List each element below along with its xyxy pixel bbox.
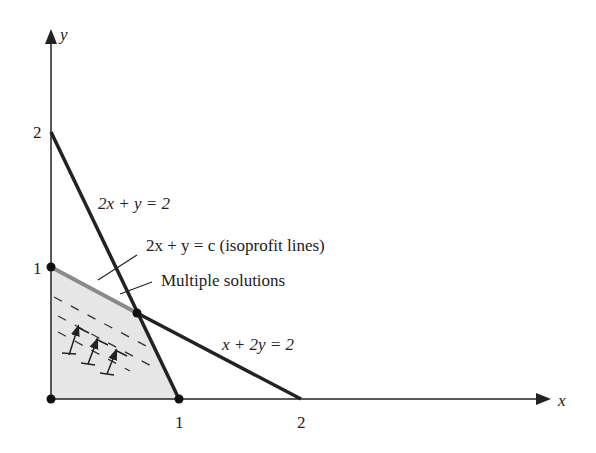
feasible-region	[51, 267, 179, 399]
x-tick-2: 2	[297, 414, 306, 431]
isoprofit-label: 2x + y = c (isoprofit lines)	[146, 237, 325, 254]
y-tick-1: 1	[33, 260, 42, 277]
x-axis-label: x	[558, 392, 566, 409]
eq1-label: 2x + y = 2	[98, 195, 170, 212]
x-tick-1: 1	[175, 414, 184, 431]
eq2-label: x + 2y = 2	[222, 336, 294, 353]
y-tick-2: 2	[33, 124, 42, 141]
multiple-solutions-label: Multiple solutions	[161, 272, 285, 289]
y-axis-label: y	[60, 26, 68, 43]
diagram-canvas	[0, 0, 596, 453]
isoprofit-leader	[98, 255, 137, 280]
lp-diagram: y x 2 1 1 2 2x + y = 2 2x + y = c (isopr…	[0, 0, 596, 453]
